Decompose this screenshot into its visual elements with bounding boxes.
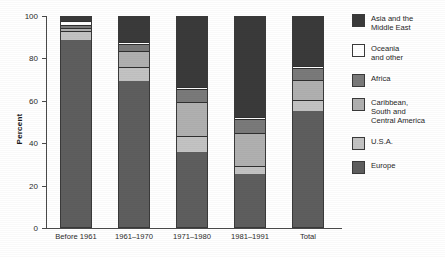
- segment-u-s-a[interactable]: [177, 136, 207, 152]
- segment-caribbean-south-and-central-america[interactable]: [61, 28, 91, 31]
- segment-asia-and-the-middle-east[interactable]: [293, 16, 323, 66]
- x-axis-line: [46, 228, 342, 229]
- legend-item-3[interactable]: Caribbean, South and Central America: [352, 98, 444, 126]
- legend-label: Asia and the Middle East: [371, 14, 413, 33]
- segment-caribbean-south-and-central-america[interactable]: [293, 80, 323, 100]
- plot-area: 100806040200: [47, 16, 337, 228]
- legend-item-5[interactable]: Europe: [352, 161, 444, 174]
- x-label-3: 1981–1991: [231, 232, 269, 241]
- segment-u-s-a[interactable]: [293, 100, 323, 112]
- segment-u-s-a[interactable]: [235, 166, 265, 174]
- segment-caribbean-south-and-central-america[interactable]: [235, 133, 265, 166]
- segment-oceania-and-other[interactable]: [119, 42, 149, 44]
- segment-europe[interactable]: [119, 81, 149, 227]
- legend-label: Caribbean, South and Central America: [371, 98, 425, 126]
- segment-u-s-a[interactable]: [119, 67, 149, 81]
- y-tick-label: 0: [34, 224, 38, 233]
- legend-swatch-icon: [352, 161, 365, 174]
- segment-europe[interactable]: [293, 111, 323, 227]
- legend-swatch-icon: [352, 137, 365, 150]
- segment-africa[interactable]: [61, 25, 91, 28]
- stacked-bar-chart: Percent 100806040200 Before 19611961–197…: [0, 0, 445, 257]
- segment-caribbean-south-and-central-america[interactable]: [119, 51, 149, 67]
- y-tick: 40: [42, 143, 47, 144]
- segment-oceania-and-other[interactable]: [61, 21, 91, 24]
- segment-oceania-and-other[interactable]: [177, 87, 207, 89]
- legend-label: U.S.A.: [371, 137, 393, 146]
- y-tick-label: 100: [25, 12, 38, 21]
- segment-oceania-and-other[interactable]: [293, 66, 323, 68]
- y-tick: 100: [42, 16, 47, 17]
- bar-0[interactable]: [60, 16, 92, 228]
- segment-oceania-and-other[interactable]: [235, 117, 265, 119]
- legend-swatch-icon: [352, 74, 365, 87]
- segment-africa[interactable]: [119, 44, 149, 51]
- segment-europe[interactable]: [177, 152, 207, 227]
- bar-3[interactable]: [234, 16, 266, 228]
- x-label-2: 1971–1980: [173, 232, 211, 241]
- y-tick: 20: [42, 186, 47, 187]
- legend-item-0[interactable]: Asia and the Middle East: [352, 14, 444, 33]
- segment-asia-and-the-middle-east[interactable]: [177, 16, 207, 87]
- y-tick: 60: [42, 101, 47, 102]
- legend-swatch-icon: [352, 98, 365, 111]
- segment-europe[interactable]: [235, 174, 265, 227]
- y-tick: 80: [42, 58, 47, 59]
- y-tick-label: 40: [29, 139, 38, 148]
- x-label-0: Before 1961: [55, 232, 96, 241]
- legend-swatch-icon: [352, 44, 365, 57]
- segment-caribbean-south-and-central-america[interactable]: [177, 102, 207, 136]
- y-tick: 0: [42, 228, 47, 229]
- y-tick-label: 80: [29, 54, 38, 63]
- segment-asia-and-the-middle-east[interactable]: [61, 16, 91, 21]
- x-label-1: 1961–1970: [115, 232, 153, 241]
- segment-africa[interactable]: [177, 89, 207, 102]
- bar-2[interactable]: [176, 16, 208, 228]
- y-axis-title: Percent: [15, 113, 24, 144]
- segment-africa[interactable]: [235, 119, 265, 133]
- chart-legend: Asia and the Middle EastOceania and othe…: [352, 14, 444, 185]
- bar-1[interactable]: [118, 16, 150, 228]
- segment-europe[interactable]: [61, 40, 91, 227]
- legend-item-4[interactable]: U.S.A.: [352, 137, 444, 150]
- legend-label: Oceania and other: [371, 44, 403, 63]
- bar-4[interactable]: [292, 16, 324, 228]
- y-tick-label: 20: [29, 181, 38, 190]
- y-tick-label: 60: [29, 96, 38, 105]
- x-label-4: Total: [300, 232, 316, 241]
- legend-item-1[interactable]: Oceania and other: [352, 44, 444, 63]
- segment-u-s-a[interactable]: [61, 31, 91, 41]
- legend-label: Africa: [371, 74, 390, 83]
- legend-label: Europe: [371, 161, 396, 170]
- segment-asia-and-the-middle-east[interactable]: [119, 16, 149, 42]
- legend-item-2[interactable]: Africa: [352, 74, 444, 87]
- legend-swatch-icon: [352, 14, 365, 27]
- segment-africa[interactable]: [293, 68, 323, 80]
- segment-asia-and-the-middle-east[interactable]: [235, 16, 265, 117]
